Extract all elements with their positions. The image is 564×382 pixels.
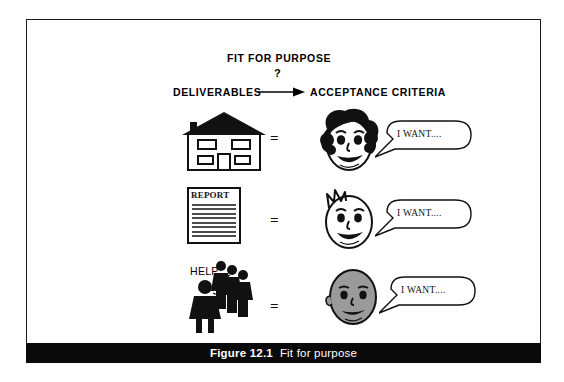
figure-frame: FIT FOR PURPOSE ? DELIVERABLES ACCEPTANC…: [26, 19, 541, 360]
report-document-label: REPORT: [191, 190, 229, 200]
figure-caption-number: Figure 12.1: [210, 347, 273, 359]
figure-caption-bar: Figure 12.1 Fit for purpose: [26, 343, 541, 363]
help-label: HELP: [190, 265, 219, 277]
house-icon: [182, 110, 267, 172]
bubble-text-row-2: I WANT....: [397, 208, 442, 218]
bubble-text-row-1: I WANT....: [397, 129, 442, 139]
figure-caption-text: Fit for purpose: [280, 347, 357, 359]
deliverables-column-header: DELIVERABLES: [173, 86, 261, 98]
equals-sign-row-1: =: [270, 130, 279, 147]
spiky-haired-face-icon: [315, 186, 383, 252]
bald-grey-face-icon: [319, 263, 387, 329]
figure-title: FIT FOR PURPOSE: [227, 52, 331, 64]
bubble-text-row-3: I WANT....: [401, 285, 446, 295]
figure-page: FIT FOR PURPOSE ? DELIVERABLES ACCEPTANC…: [0, 0, 564, 382]
question-mark-label: ?: [274, 67, 281, 79]
right-arrow-icon: [257, 84, 307, 100]
acceptance-criteria-column-header: ACCEPTANCE CRITERIA: [310, 86, 446, 98]
equals-sign-row-2: =: [270, 212, 279, 229]
equals-sign-row-3: =: [270, 298, 279, 315]
